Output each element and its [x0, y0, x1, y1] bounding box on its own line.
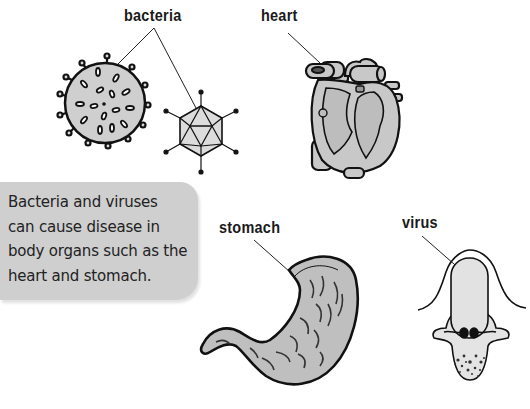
bacteria-icosahedron-icon	[164, 90, 238, 174]
info-callout-box: Bacteria and viruses can cause disease i…	[0, 182, 198, 300]
label-heart: heart	[261, 6, 298, 26]
label-virus: virus	[402, 213, 438, 233]
callout-text: Bacteria and viruses can cause disease i…	[8, 190, 187, 288]
stomach-icon	[201, 257, 358, 385]
bacteria-sphere-icon	[58, 54, 151, 149]
heart-icon	[306, 59, 402, 178]
label-bacteria: bacteria	[124, 6, 181, 26]
virus-in-cell-icon	[418, 250, 526, 380]
label-stomach: stomach	[219, 218, 280, 238]
